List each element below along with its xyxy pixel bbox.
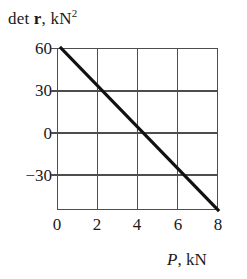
x-tick-label: 6 bbox=[166, 216, 190, 233]
x-tick-label: 4 bbox=[125, 216, 149, 233]
x-axis-label-symbol: P bbox=[167, 250, 177, 269]
y-tick-label: 0 bbox=[0, 125, 52, 142]
y-axis-label-exponent: 2 bbox=[72, 7, 78, 19]
x-tick-label: 8 bbox=[206, 216, 230, 233]
y-tick-label: 60 bbox=[0, 40, 52, 57]
data-line-series-0 bbox=[61, 48, 218, 210]
y-tick-label: 30 bbox=[0, 82, 52, 99]
x-tick-label: 2 bbox=[85, 216, 109, 233]
x-axis-label: P, kN bbox=[167, 250, 207, 270]
plot-area bbox=[57, 48, 218, 210]
y-tick-label: −30 bbox=[0, 167, 52, 184]
x-axis-label-units: , kN bbox=[177, 250, 206, 269]
x-axis-tick-labels: 0 2 4 6 8 bbox=[0, 216, 247, 242]
x-tick-label: 0 bbox=[45, 216, 69, 233]
chart-figure: det r, kN2 60 30 0 −30 bbox=[0, 0, 247, 279]
